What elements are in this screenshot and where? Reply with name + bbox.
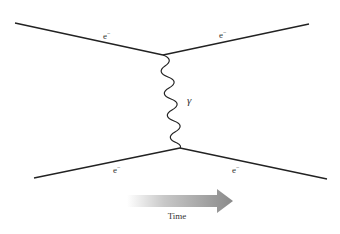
incoming-electron-top-line bbox=[15, 23, 163, 55]
electron-label-bottom-left: e− bbox=[113, 164, 121, 175]
time-label: Time bbox=[168, 211, 187, 221]
photon-propagator-wavy-line bbox=[161, 55, 180, 148]
photon-label: γ bbox=[187, 94, 192, 106]
electron-label-top-left: e− bbox=[103, 30, 111, 41]
outgoing-electron-top-line bbox=[163, 24, 309, 55]
electron-label-top-right: e− bbox=[219, 29, 227, 40]
feynman-diagram: e− e− e− e− γ Time bbox=[0, 0, 340, 234]
incoming-electron-bottom-line bbox=[34, 148, 180, 178]
time-arrow-icon bbox=[127, 189, 233, 213]
electron-label-bottom-right: e− bbox=[232, 164, 240, 175]
outgoing-electron-bottom-line bbox=[180, 148, 327, 179]
